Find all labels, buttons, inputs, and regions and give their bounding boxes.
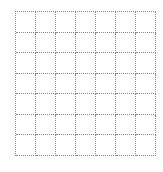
grid-cell[interactable] [136, 12, 156, 33]
grid-cell[interactable] [96, 53, 116, 74]
grid-cell[interactable] [136, 115, 156, 136]
grid-cell[interactable] [56, 74, 76, 95]
grid-cell[interactable] [36, 33, 56, 54]
grid-cell[interactable] [36, 12, 56, 33]
grid-cell[interactable] [96, 33, 116, 54]
grid-cell[interactable] [56, 53, 76, 74]
grid-cell[interactable] [136, 53, 156, 74]
grid-cell[interactable] [116, 12, 136, 33]
grid-cell[interactable] [76, 115, 96, 136]
empty-grid [15, 11, 156, 156]
grid-cell[interactable] [96, 135, 116, 156]
grid-cell[interactable] [16, 33, 36, 54]
grid-cell[interactable] [16, 12, 36, 33]
grid-cell[interactable] [96, 94, 116, 115]
grid-cell[interactable] [116, 53, 136, 74]
grid-cell[interactable] [56, 12, 76, 33]
grid-cell[interactable] [76, 74, 96, 95]
grid-cell[interactable] [56, 135, 76, 156]
grid-cell[interactable] [116, 33, 136, 54]
grid-cell[interactable] [76, 12, 96, 33]
grid-cell[interactable] [136, 74, 156, 95]
grid-cell[interactable] [96, 12, 116, 33]
grid-cell[interactable] [16, 115, 36, 136]
grid-cell[interactable] [36, 53, 56, 74]
grid-cell[interactable] [16, 135, 36, 156]
grid-cell[interactable] [56, 115, 76, 136]
grid-cell[interactable] [76, 135, 96, 156]
grid-cell[interactable] [96, 115, 116, 136]
grid-cell[interactable] [16, 53, 36, 74]
grid-cell[interactable] [116, 135, 136, 156]
grid-cell[interactable] [116, 74, 136, 95]
grid-cell[interactable] [76, 33, 96, 54]
grid-cell[interactable] [96, 74, 116, 95]
grid-cell[interactable] [56, 94, 76, 115]
grid-cell[interactable] [36, 74, 56, 95]
grid-cell[interactable] [76, 94, 96, 115]
grid-cell[interactable] [136, 135, 156, 156]
grid-cell[interactable] [76, 53, 96, 74]
grid-cell[interactable] [36, 135, 56, 156]
grid-cell[interactable] [116, 115, 136, 136]
grid-cell[interactable] [136, 94, 156, 115]
grid-cell[interactable] [136, 33, 156, 54]
grid-cell[interactable] [36, 94, 56, 115]
grid-cell[interactable] [16, 74, 36, 95]
grid-cell[interactable] [16, 94, 36, 115]
grid-cell[interactable] [116, 94, 136, 115]
grid-cell[interactable] [36, 115, 56, 136]
grid-cell[interactable] [56, 33, 76, 54]
